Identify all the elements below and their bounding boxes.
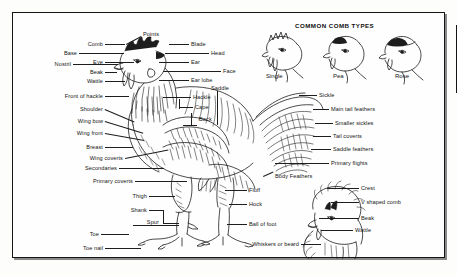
leader-points — [126, 36, 141, 45]
leader-hock — [229, 204, 247, 205]
label-base: Base — [41, 50, 77, 56]
label-nostril: Nostril — [27, 61, 71, 67]
label-saddle-feathers: Saddle feathers — [333, 146, 373, 152]
leader-toe-nail — [105, 248, 141, 249]
label-ball-of-foot: Ball of foot — [249, 221, 276, 227]
leader-ear-lobe — [159, 80, 189, 81]
leader-wing-coverts — [125, 150, 168, 159]
leader-cape — [179, 107, 193, 108]
figure-frame: COMMON COMB TYPES Single Pea Rose Points… — [12, 12, 445, 258]
leader-whiskers-or-beard — [301, 244, 321, 245]
leader-shoulder — [105, 109, 135, 122]
leader-blade — [169, 44, 189, 45]
leader-beak — [105, 72, 117, 73]
leader-fluff — [225, 190, 247, 191]
label-comb: Comb — [65, 41, 103, 47]
label-saddle: Saddle — [211, 85, 229, 91]
label-smaller-sickles: Smaller sickles — [335, 120, 374, 126]
leader-wing-front — [105, 133, 145, 141]
label-wattle: Wattle — [61, 78, 103, 84]
label-sickle: Sickle — [319, 92, 334, 98]
label-front-of-hackle: Front of hackle — [33, 93, 103, 99]
comb-type-pea-label: Pea — [333, 73, 344, 79]
label-cape: Cape — [195, 104, 209, 110]
comb-type-single-label: Single — [266, 73, 283, 79]
leader-body-feathers — [263, 172, 273, 177]
leader-main-tail-feathers — [313, 109, 329, 110]
label-ear: Ear — [191, 59, 200, 65]
poultry-anatomy-figure: COMMON COMB TYPES Single Pea Rose Points… — [0, 0, 457, 276]
label-crest: Crest — [361, 185, 375, 191]
label-head: Head — [211, 50, 225, 56]
leader-primary-coverts — [135, 181, 187, 182]
comb-type-rose-label: Rose — [395, 73, 409, 79]
leader-wattle — [105, 81, 125, 82]
leader-shank-h2 — [163, 223, 179, 224]
leader-nostril — [73, 64, 118, 65]
leader-back-v — [191, 113, 192, 125]
label-toe-nail: Toe nail — [47, 245, 103, 251]
label-ear-lobe: Ear lobe — [191, 77, 212, 83]
leader-secondaries — [119, 168, 164, 169]
leader-back — [183, 125, 197, 126]
leader-hackle — [163, 97, 191, 98]
label-toe: Toe — [65, 231, 99, 237]
label-hen-beak: Beak — [361, 215, 374, 221]
leader-shank — [149, 210, 163, 211]
label-secondaries: Secondaries — [47, 165, 117, 171]
leader-base — [79, 53, 124, 54]
label-wing-front: Wing front — [39, 130, 103, 136]
label-face: Face — [223, 68, 236, 74]
label-fluff: Fluff — [249, 187, 260, 193]
leader-front-of-hackle — [105, 96, 129, 97]
leader-ear — [159, 62, 189, 63]
label-wing-coverts: Wing coverts — [51, 155, 123, 161]
label-v-shaped-comb: V shaped comb — [361, 199, 401, 205]
leader-breast — [105, 147, 133, 148]
leader-spur-h — [133, 225, 179, 226]
label-main-tail-feathers: Main tail feathers — [331, 106, 375, 112]
label-wing-bow: Wing bow — [41, 118, 103, 124]
leader-crest — [327, 188, 359, 189]
leader-shank-v — [163, 210, 164, 223]
label-hock: Hock — [249, 201, 262, 207]
label-breast: Breast — [51, 144, 103, 150]
label-hen-wattle: Wattle — [355, 227, 371, 233]
label-shoulder: Shoulder — [43, 106, 103, 112]
leader-thigh — [149, 196, 175, 197]
leader-primary-flights — [275, 163, 329, 164]
label-tail-coverts: Tail coverts — [333, 133, 362, 139]
leader-hen-wattle — [321, 230, 353, 231]
label-points: Points — [143, 31, 159, 37]
leader-v-shaped-comb — [331, 202, 359, 203]
label-shank: Shank — [103, 207, 147, 213]
comb-types-panel — [267, 25, 457, 93]
leader-saddle-feathers — [311, 149, 331, 150]
leader-hen-beak — [319, 218, 359, 219]
leader-face — [163, 71, 221, 72]
label-blade: Blade — [191, 41, 206, 47]
label-back: Back — [199, 116, 212, 122]
label-thigh: Thigh — [105, 193, 147, 199]
leader-comb — [105, 44, 125, 45]
leader-ball-of-foot — [227, 224, 247, 225]
label-whiskers-or-beard: Whiskers or beard — [225, 241, 299, 247]
leader-sickle — [299, 95, 317, 96]
leader-saddle-v — [217, 91, 218, 125]
leader-smaller-sickles — [315, 123, 333, 124]
comb-types-heading: COMMON COMB TYPES — [295, 22, 374, 29]
leader-wing-bow — [105, 121, 143, 133]
leader-eye — [105, 62, 134, 63]
leader-tail-coverts — [313, 136, 331, 137]
label-hackle: Hackle — [193, 94, 211, 100]
leader-toe — [101, 234, 129, 235]
label-body-feathers: Body Feathers — [275, 173, 312, 179]
leader-head — [165, 53, 209, 54]
label-primary-flights: Primary flights — [331, 160, 368, 166]
label-beak: Beak — [65, 69, 103, 75]
label-primary-coverts: Primary coverts — [57, 178, 133, 184]
